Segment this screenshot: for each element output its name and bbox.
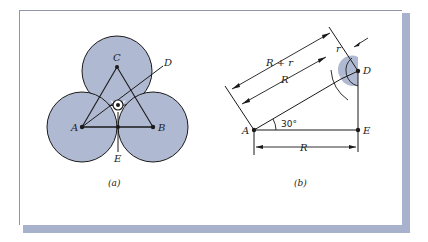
figure-b: A E D R + r R R r 30° (b) (225, 27, 371, 188)
label-d: D (362, 65, 371, 76)
point-e (116, 125, 120, 129)
arrow (322, 33, 330, 39)
arrow (242, 98, 250, 104)
arrow (256, 145, 263, 149)
label-c: C (113, 52, 121, 63)
diagram-canvas: C D A B E (a) (0, 0, 428, 242)
point-a (252, 128, 256, 132)
label-a: A (241, 125, 249, 136)
label-a: A (70, 122, 78, 133)
point-c (115, 65, 119, 69)
label-e: E (362, 125, 371, 136)
caption-b: (b) (294, 178, 307, 188)
small-circle-center (116, 103, 120, 107)
point-b (151, 125, 155, 129)
line-ad (254, 79, 341, 130)
angle-arc (273, 119, 276, 130)
point-a (80, 125, 84, 129)
label-b: B (157, 122, 165, 133)
arrow (232, 83, 240, 89)
figure-a: C D A B E (a) (47, 36, 188, 188)
label-d: D (163, 57, 172, 68)
caption-a: (a) (108, 178, 121, 188)
label-e: E (113, 153, 122, 164)
arrow (318, 57, 326, 63)
label-r-horizontal: R (299, 142, 308, 153)
point-e (356, 128, 360, 132)
point-d (356, 69, 360, 73)
arrow (349, 145, 356, 149)
label-angle: 30° (281, 119, 297, 129)
dim-small-tail (360, 38, 368, 43)
label-r-plus-r: R + r (265, 57, 294, 68)
ext-a-perp (225, 86, 254, 130)
label-r-inner: R (280, 74, 289, 85)
